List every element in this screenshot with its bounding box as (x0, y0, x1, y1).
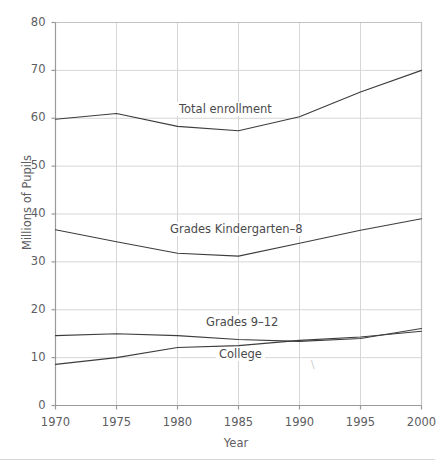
bottom-divider (0, 459, 435, 460)
y-tick-label: 10 (16, 350, 46, 364)
x-axis-title: Year (196, 436, 276, 450)
series-label-total-enrollment: Total enrollment (176, 102, 275, 116)
y-tick-label: 0 (16, 398, 46, 412)
y-axis-title: Millions of Pupils (20, 160, 34, 250)
y-tick-label: 20 (16, 302, 46, 316)
y-tick-label: 60 (16, 110, 46, 124)
x-tick-label: 1970 (34, 415, 78, 429)
x-tick-label: 1975 (95, 415, 139, 429)
y-tick-label: 30 (16, 254, 46, 268)
y-tick-label: 80 (16, 15, 46, 29)
y-tick-label: 70 (16, 62, 46, 76)
x-tick-label: 1990 (278, 415, 322, 429)
x-tick-label: 1985 (217, 415, 261, 429)
series-label-grades-9-12: Grades 9–12 (203, 315, 281, 329)
y-tick-label: 50 (16, 158, 46, 172)
stray-pencil-mark: \ (311, 359, 314, 370)
x-tick-label: 1995 (339, 415, 383, 429)
series-label-grades-k-8: Grades Kindergarten–8 (167, 222, 306, 236)
x-tick-label: 2000 (400, 415, 440, 429)
series-label-college: College (216, 347, 265, 361)
x-tick-label: 1980 (156, 415, 200, 429)
y-tick-label: 40 (16, 206, 46, 220)
